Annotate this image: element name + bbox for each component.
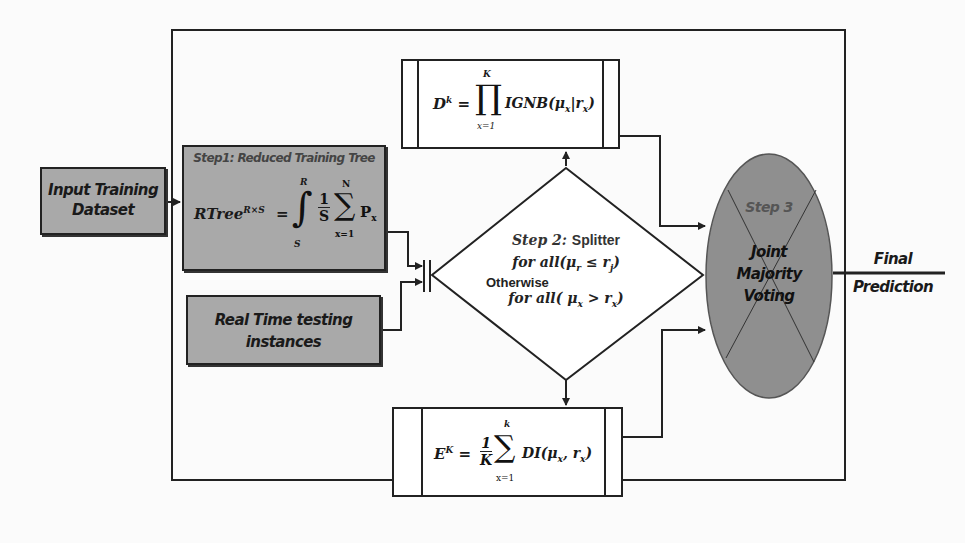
fraction-1-over-k: 1 K <box>480 435 492 468</box>
splitter-text: Step 2: Splitter for all(μr ≤ rj) Otherw… <box>480 232 652 309</box>
rtree-label: RTree <box>194 205 243 223</box>
sum-lower: x=1 <box>335 229 354 239</box>
product-sign: ∏ <box>475 77 502 117</box>
real-time-testing-instances-box: Real Time testing instances <box>186 295 381 365</box>
integral-sign: ∫ <box>292 183 313 231</box>
di-term: DI(μx, rx) <box>522 445 592 464</box>
splitter-title: Step 2: Splitter <box>480 232 652 248</box>
arrow-d-to-voting <box>620 136 705 226</box>
fraction-1-over-s: 1 S <box>318 191 330 224</box>
voting-line2: Majority <box>709 263 829 285</box>
equals-sign: = <box>276 205 289 223</box>
splitter-condition-1: for all(μr ≤ rj) <box>480 254 652 273</box>
voting-line3: Voting <box>709 285 829 307</box>
px-term: Px <box>360 203 377 223</box>
arrow-step1-to-splitter <box>386 232 422 266</box>
realtime-line1: Real Time testing <box>188 309 379 331</box>
prod-lower: x=1 <box>477 121 495 131</box>
ignb-term: IGNB(μx|rx) <box>505 95 595 114</box>
e-sum-lower: x=1 <box>496 473 514 483</box>
sum-sign: ∑ <box>334 187 355 223</box>
integral-lower: S <box>294 239 301 249</box>
realtime-line2: instances <box>188 331 379 353</box>
d-formula-box: Dk = K ∏ x=1 IGNB(μx|rx) <box>401 59 620 149</box>
e-sum-upper: k <box>504 419 510 429</box>
final-prediction-line2: Prediction <box>843 278 943 296</box>
input-training-dataset-box: Input Training Dataset <box>40 167 166 235</box>
rtree-sup: R×S <box>243 205 265 215</box>
d-formula: Dk = K ∏ x=1 IGNB(μx|rx) <box>433 69 603 145</box>
voting-line1: Joint <box>709 241 829 263</box>
step3-title: Step 3 <box>719 199 819 215</box>
step3-label: Joint Majority Voting <box>709 241 829 307</box>
final-prediction-line1: Final <box>848 250 938 268</box>
e-sum-sign: ∑ <box>494 429 515 465</box>
arrow-e-to-voting <box>623 330 705 437</box>
splitter-condition-2: for all( μx > rx) <box>480 290 652 309</box>
step1-reduced-training-tree-box: Step1: Reduced Training Tree RTreeR×S = … <box>182 145 386 271</box>
input-box-line1: Input Training <box>42 180 164 200</box>
splitter-otherwise: Otherwise <box>480 275 652 290</box>
step1-formula: RTreeR×S = R ∫ S 1 S N ∑ x=1 Px <box>194 177 384 257</box>
input-box-line2: Dataset <box>42 200 164 220</box>
e-formula: EK = 1 K k ∑ x=1 DI(μx, rx) <box>434 415 604 495</box>
arrow-realtime-to-splitter <box>381 282 422 330</box>
e-formula-box: EK = 1 K k ∑ x=1 DI(μx, rx) <box>392 407 623 497</box>
step1-title: Step1: Reduced Training Tree <box>184 151 384 165</box>
